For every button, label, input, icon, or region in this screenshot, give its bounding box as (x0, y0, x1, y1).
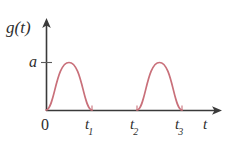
y-axis-label: g(t) (6, 19, 31, 36)
curve-arch-second (137, 63, 182, 111)
x-tick-label-t1-subscript: 1 (88, 126, 93, 137)
figure-container: g(t) a 0 t1 t2 t3 t (0, 0, 236, 145)
y-tick-label-a: a (29, 54, 37, 70)
curve-arch-first (46, 63, 92, 111)
x-tick-label-t2: t2 (130, 117, 139, 135)
x-tick-label-t3-subscript: 3 (178, 126, 183, 137)
x-tick-label-t2-subscript: 2 (133, 126, 138, 137)
x-tick-label-origin: 0 (41, 117, 49, 133)
x-tick-label-t1: t1 (85, 117, 94, 135)
x-tick-label-t3: t3 (175, 117, 184, 135)
x-axis-label: t (203, 117, 207, 132)
plot-area (0, 0, 236, 145)
